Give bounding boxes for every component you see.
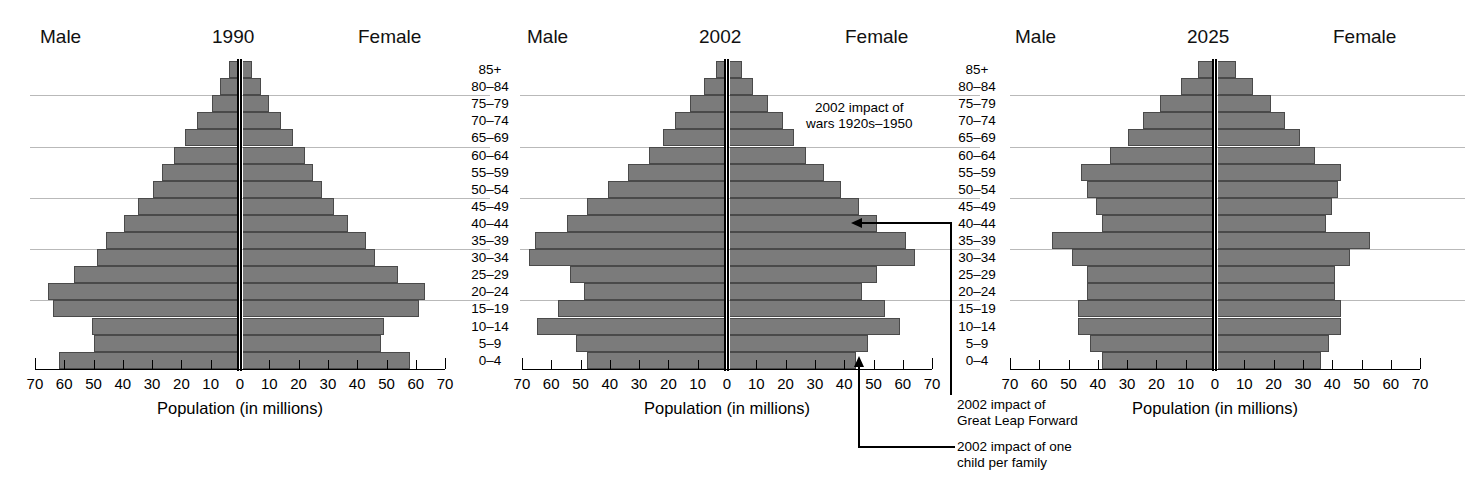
x-tick-label-2025-4: 30	[1119, 375, 1136, 392]
age-group-label-40–44: 40–44	[459, 215, 521, 232]
header-male-2025: Male	[1015, 26, 1056, 48]
bar-female-2025-55–59	[1218, 164, 1341, 181]
x-tick-2025-2	[1069, 360, 1070, 369]
annotation-onechild-line2: child per family	[957, 455, 1047, 471]
x-tick-label-2025-8: 10	[1236, 375, 1253, 392]
annotation-glf-line2: Great Leap Forward	[957, 413, 1078, 429]
x-tick-label-2025-6: 10	[1177, 375, 1194, 392]
x-tick-label-2025-0: 70	[1002, 375, 1019, 392]
age-group-label-75–79: 75–79	[459, 95, 521, 112]
annotation-wars-line1: 2002 impact of	[815, 100, 904, 116]
bar-male-2025-80–84	[1181, 78, 1213, 95]
x-tick-2025-1	[1039, 360, 1040, 369]
age-group-label-20–24: 20–24	[946, 283, 1008, 300]
bar-male-2025-15–19	[1078, 300, 1213, 317]
x-tick-label-2025-14: 70	[1412, 375, 1429, 392]
age-group-label-10–14: 10–14	[946, 318, 1008, 335]
bar-male-2025-75–79	[1160, 95, 1213, 112]
x-tick-label-2025-10: 30	[1295, 375, 1312, 392]
x-tick-label-2025-2: 50	[1060, 375, 1077, 392]
age-group-column-1: 85+80–8475–7970–7465–6960–6455–5950–5445…	[459, 61, 521, 369]
age-group-label-85+: 85+	[459, 61, 521, 78]
age-group-label-5–9: 5–9	[946, 335, 1008, 352]
bar-female-2025-80–84	[1218, 78, 1253, 95]
age-group-label-50–54: 50–54	[459, 181, 521, 198]
bar-male-2025-70–74	[1143, 112, 1213, 129]
age-group-label-55–59: 55–59	[459, 164, 521, 181]
age-group-label-45–49: 45–49	[459, 198, 521, 215]
bar-female-2025-65–69	[1218, 129, 1300, 146]
x-tick-2025-11	[1332, 360, 1333, 369]
x-tick-2025-14	[1420, 358, 1421, 369]
age-group-label-60–64: 60–64	[459, 147, 521, 164]
bar-female-2025-50–54	[1218, 181, 1338, 198]
x-tick-label-2025-5: 20	[1148, 375, 1165, 392]
age-group-label-20–24: 20–24	[459, 283, 521, 300]
x-tick-2025-6	[1186, 360, 1187, 369]
age-group-label-80–84: 80–84	[459, 78, 521, 95]
bar-female-2025-40–44	[1218, 215, 1326, 232]
bar-female-2025-20–24	[1218, 283, 1335, 300]
annotation-onechild-arrowhead	[854, 356, 864, 367]
pyramid-panel-2025: Male2025Female70605040302010010203040506…	[0, 0, 1470, 486]
bar-male-2025-55–59	[1081, 164, 1213, 181]
x-axis-title-2025: Population (in millions)	[1132, 399, 1298, 418]
age-group-label-70–74: 70–74	[946, 112, 1008, 129]
age-group-label-55–59: 55–59	[946, 164, 1008, 181]
x-tick-2025-9	[1274, 360, 1275, 369]
bar-male-2025-65–69	[1128, 129, 1213, 146]
x-tick-label-2025-3: 40	[1089, 375, 1106, 392]
bar-female-2025-60–64	[1218, 147, 1315, 164]
annotation-glf-arrowhead	[851, 218, 862, 228]
bar-female-2025-5–9	[1218, 335, 1329, 352]
bar-male-2025-40–44	[1102, 215, 1213, 232]
age-group-label-0–4: 0–4	[946, 352, 1008, 369]
annotation-onechild-line1: 2002 impact of one	[957, 439, 1072, 455]
bar-female-2025-30–34	[1218, 249, 1350, 266]
bar-male-2025-30–34	[1072, 249, 1213, 266]
age-group-label-30–34: 30–34	[459, 249, 521, 266]
x-tick-2025-4	[1127, 360, 1128, 369]
bar-female-2025-85+	[1218, 61, 1236, 78]
age-group-label-60–64: 60–64	[946, 147, 1008, 164]
bar-female-2025-25–29	[1218, 266, 1335, 283]
annotation-glf-line1: 2002 impact of	[957, 397, 1046, 413]
age-group-label-75–79: 75–79	[946, 95, 1008, 112]
x-tick-2025-13	[1391, 360, 1392, 369]
bar-male-2025-35–39	[1052, 232, 1213, 249]
header-female-2025: Female	[1333, 26, 1396, 48]
bar-male-2025-10–14	[1078, 318, 1213, 335]
x-tick-2025-3	[1098, 360, 1099, 369]
age-group-label-35–39: 35–39	[459, 232, 521, 249]
annotation-glf-leader-vertical	[950, 222, 952, 395]
bar-male-2025-60–64	[1110, 147, 1213, 164]
age-group-label-0–4: 0–4	[459, 352, 521, 369]
bar-female-2025-0–4	[1218, 352, 1321, 369]
age-group-label-15–19: 15–19	[946, 300, 1008, 317]
age-group-label-15–19: 15–19	[459, 300, 521, 317]
center-axis-2025	[1212, 59, 1217, 371]
age-group-column-2: 85+80–8475–7970–7465–6960–6455–5950–5445…	[946, 61, 1008, 369]
bar-male-2025-45–49	[1096, 198, 1213, 215]
bar-male-2025-5–9	[1090, 335, 1213, 352]
age-group-label-45–49: 45–49	[946, 198, 1008, 215]
bar-female-2025-70–74	[1218, 112, 1285, 129]
x-tick-label-2025-1: 60	[1031, 375, 1048, 392]
x-axis-2025	[1010, 369, 1420, 370]
age-group-label-35–39: 35–39	[946, 232, 1008, 249]
bar-female-2025-10–14	[1218, 318, 1341, 335]
chart-title-2025: 2025	[1187, 26, 1229, 48]
age-group-label-65–69: 65–69	[459, 129, 521, 146]
x-tick-2025-5	[1156, 360, 1157, 369]
x-tick-label-2025-7: 0	[1211, 375, 1219, 392]
age-group-label-25–29: 25–29	[946, 266, 1008, 283]
x-tick-2025-8	[1244, 360, 1245, 369]
x-tick-2025-0	[1010, 358, 1011, 369]
x-tick-2025-12	[1362, 360, 1363, 369]
age-group-label-10–14: 10–14	[459, 318, 521, 335]
age-group-label-80–84: 80–84	[946, 78, 1008, 95]
age-group-label-70–74: 70–74	[459, 112, 521, 129]
x-tick-label-2025-13: 60	[1382, 375, 1399, 392]
annotation-wars-line2: wars 1920s–1950	[806, 116, 913, 132]
x-tick-2025-7	[1215, 360, 1216, 369]
